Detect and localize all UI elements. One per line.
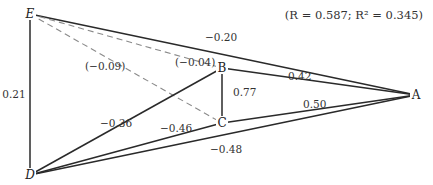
node-e: E (25, 7, 35, 21)
edge-label-b-a: 0.42 (288, 70, 311, 82)
edge-e-a (30, 14, 416, 95)
edge-label-c-a: 0.50 (303, 98, 326, 110)
path-diagram: −0.20(−0.04)(−0.09)0.210.420.770.50−0.36… (0, 0, 433, 185)
edge-label-d-c: −0.46 (160, 122, 192, 134)
node-d: D (24, 168, 35, 182)
edge-label-e-d: 0.21 (2, 88, 25, 100)
edge-label-e-b: (−0.04) (175, 56, 215, 68)
edge-label-e-a: −0.20 (205, 31, 237, 43)
edge-d-a (30, 95, 416, 175)
edge-d-c (30, 123, 222, 175)
node-c: C (217, 116, 226, 130)
edge-label-d-a: −0.48 (210, 143, 242, 155)
node-b: B (218, 61, 227, 75)
edge-label-d-b: −0.36 (100, 117, 132, 129)
node-a: A (411, 88, 421, 102)
edge-e-c (30, 14, 222, 123)
edge-label-b-c: 0.77 (233, 86, 256, 98)
edge-label-e-c: (−0.09) (85, 60, 125, 72)
